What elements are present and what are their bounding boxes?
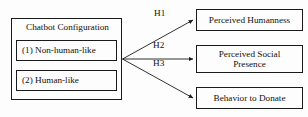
condition-human-like-label: (2) Human-like xyxy=(22,75,79,85)
outcome-behavior-to-donate-line1: Behavior to Donate xyxy=(214,93,286,103)
outcome-perceived-humanness: Perceived Humanness xyxy=(196,9,303,31)
research-model-diagram: Chatbot Configuration (1) Non-human-like… xyxy=(0,0,308,117)
condition-non-human-like-label: (1) Non-human-like xyxy=(22,45,96,55)
outcome-perceived-humanness-line1: Perceived Humanness xyxy=(209,15,290,25)
hypothesis-label-h3: H3 xyxy=(153,58,164,68)
condition-human-like: (2) Human-like xyxy=(16,70,117,91)
outcome-behavior-to-donate: Behavior to Donate xyxy=(196,87,303,109)
outcome-perceived-social-presence-line2: Presence xyxy=(219,59,280,69)
chatbot-configuration-title: Chatbot Configuration xyxy=(12,22,123,32)
condition-non-human-like: (1) Non-human-like xyxy=(16,40,117,61)
hypothesis-label-h1: H1 xyxy=(154,8,165,18)
outcome-perceived-social-presence: Perceived Social Presence xyxy=(196,45,303,73)
hypothesis-label-h2: H2 xyxy=(153,40,164,50)
outcome-perceived-social-presence-line1: Perceived Social xyxy=(219,49,280,59)
